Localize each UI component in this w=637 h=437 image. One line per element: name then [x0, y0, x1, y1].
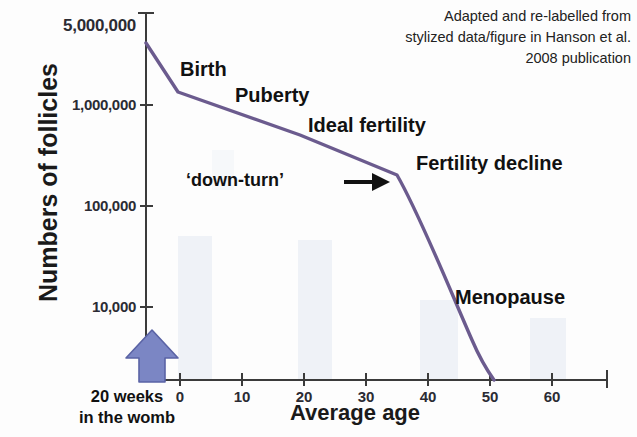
attribution-line1: Adapted and re-labelled from: [335, 6, 631, 27]
annotation-menopause: Menopause: [455, 286, 565, 309]
womb-arrow-icon: [126, 330, 178, 382]
y-axis-title: Numbers of follicles: [34, 33, 63, 333]
annotation-ideal-fertility: Ideal fertility: [308, 114, 426, 137]
annotation-birth: Birth: [180, 58, 227, 81]
attribution-line3: 2008 publication: [335, 48, 631, 69]
follicle-curve: [146, 43, 494, 380]
annotation-down-turn: ‘down-turn’: [186, 170, 284, 191]
womb-note-line1: 20 weeks: [62, 386, 192, 407]
annotation-puberty: Puberty: [235, 84, 309, 107]
annotation-fertility-decline: Fertility decline: [416, 152, 563, 175]
attribution-note: Adapted and re-labelled from stylized da…: [335, 6, 631, 69]
attribution-line2: stylized data/figure in Hanson et al.: [335, 27, 631, 48]
x-axis-title: Average age: [290, 400, 420, 426]
follicle-decline-chart: 5,000,000 1,000,000 100,000 10,000 0 10 …: [0, 0, 637, 437]
womb-note-line2: in the womb: [62, 407, 192, 428]
womb-note: 20 weeks in the womb: [62, 386, 192, 428]
down-turn-arrow-icon: [344, 173, 390, 191]
